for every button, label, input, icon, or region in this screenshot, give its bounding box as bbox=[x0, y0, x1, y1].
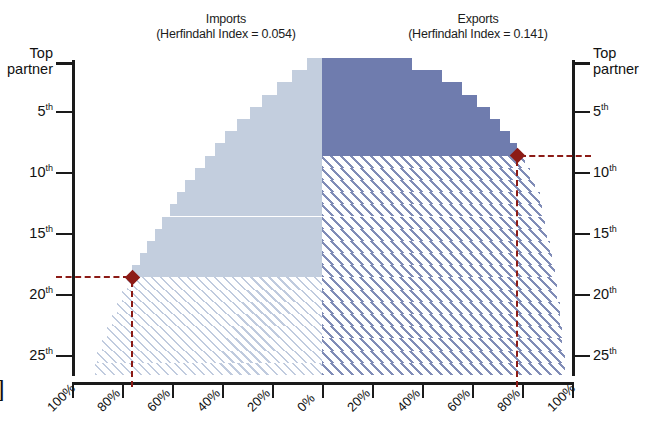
right-y-label-3-sup: th bbox=[609, 224, 617, 234]
exports-step-rank-5 bbox=[322, 107, 490, 119]
imports-step-rank-11 bbox=[185, 180, 323, 192]
left-y-tick-25 bbox=[56, 355, 72, 358]
left-y-label-2-sup: th bbox=[45, 163, 53, 173]
imports-marker-hline bbox=[56, 276, 129, 278]
imports-step-rank-16 bbox=[147, 241, 322, 253]
imports-marker-vline bbox=[131, 281, 133, 387]
exports-step-rank-2 bbox=[322, 70, 442, 82]
right-y-label-4: 20th bbox=[593, 285, 617, 302]
exports-step-rank-12 bbox=[322, 192, 540, 204]
right-y-label-2: 10th bbox=[593, 163, 617, 180]
left-y-label-5-num: 25 bbox=[29, 346, 45, 362]
right-y-axis-spine bbox=[572, 60, 575, 376]
imports-step-rank-24 bbox=[102, 338, 322, 350]
exports-step-rank-14 bbox=[322, 217, 545, 229]
exports-step-rank-19 bbox=[322, 277, 557, 289]
left-y-tick-15 bbox=[56, 233, 72, 236]
x-axis-label-5: 0% bbox=[294, 391, 318, 415]
exports-step-rank-6 bbox=[322, 119, 500, 131]
exports-step-rank-21 bbox=[322, 302, 560, 314]
exports-step-rank-26 bbox=[322, 363, 565, 375]
left-y-label-2: 10th bbox=[29, 163, 53, 180]
edge-bracket-glyph: ] bbox=[0, 374, 5, 404]
imports-step-rank-26 bbox=[95, 363, 323, 375]
exports-step-rank-23 bbox=[322, 326, 562, 338]
x-axis-label-2: 60% bbox=[144, 386, 173, 415]
left-y-label-0: Toppartner bbox=[7, 46, 53, 77]
right-y-label-1-sup: th bbox=[601, 102, 609, 112]
imports-step-rank-1 bbox=[307, 58, 322, 70]
exports-step-rank-4 bbox=[322, 95, 477, 107]
left-y-label-3: 15th bbox=[29, 224, 53, 241]
exports-step-rank-13 bbox=[322, 204, 542, 216]
left-y-label-5-sup: th bbox=[45, 346, 53, 356]
exports-step-rank-3 bbox=[322, 82, 462, 94]
left-y-label-3-sup: th bbox=[45, 224, 53, 234]
imports-step-rank-4 bbox=[262, 95, 322, 107]
imports-step-rank-20 bbox=[122, 290, 322, 302]
exports-step-rank-25 bbox=[322, 351, 565, 363]
x-axis-label-4: 20% bbox=[244, 386, 273, 415]
imports-title-line2: (Herfindahl Index = 0.054) bbox=[96, 27, 356, 42]
right-y-label-3-num: 15 bbox=[593, 225, 609, 241]
imports-step-rank-22 bbox=[112, 314, 322, 326]
x-axis-label-8: 60% bbox=[444, 386, 473, 415]
exports-step-rank-22 bbox=[322, 314, 560, 326]
right-y-label-0-line1: Top bbox=[593, 46, 639, 62]
exports-step-rank-18 bbox=[322, 265, 555, 277]
imports-step-rank-19 bbox=[127, 277, 322, 289]
plot-area bbox=[72, 58, 572, 375]
exports-step-rank-15 bbox=[322, 229, 547, 241]
right-y-label-5-sup: th bbox=[609, 346, 617, 356]
imports-step-rank-12 bbox=[177, 192, 322, 204]
exports-step-rank-20 bbox=[322, 290, 557, 302]
imports-step-rank-21 bbox=[117, 302, 322, 314]
exports-title-line1: Exports bbox=[348, 12, 608, 27]
right-y-label-5: 25th bbox=[593, 346, 617, 363]
x-axis-label-7: 40% bbox=[394, 386, 423, 415]
right-y-label-2-num: 10 bbox=[593, 164, 609, 180]
right-y-label-2-sup: th bbox=[609, 163, 617, 173]
imports-step-rank-18 bbox=[132, 265, 322, 277]
imports-step-rank-23 bbox=[107, 326, 322, 338]
right-y-tick-25 bbox=[574, 355, 590, 358]
chart-root: Imports (Herfindahl Index = 0.054) Expor… bbox=[0, 0, 672, 443]
imports-step-rank-8 bbox=[215, 143, 323, 155]
imports-step-rank-7 bbox=[225, 131, 323, 143]
exports-step-rank-7 bbox=[322, 131, 510, 143]
left-y-label-5: 25th bbox=[29, 346, 53, 363]
exports-step-rank-8 bbox=[322, 143, 517, 155]
exports-title-line2: (Herfindahl Index = 0.141) bbox=[348, 27, 608, 42]
imports-step-rank-14 bbox=[162, 217, 322, 229]
imports-step-rank-15 bbox=[155, 229, 323, 241]
imports-step-rank-9 bbox=[205, 156, 323, 168]
right-y-label-0: Toppartner bbox=[593, 46, 639, 77]
right-y-label-1: 5th bbox=[593, 102, 609, 119]
right-y-tick-5 bbox=[574, 111, 590, 114]
left-y-axis-spine bbox=[72, 60, 75, 376]
imports-panel-title: Imports (Herfindahl Index = 0.054) bbox=[96, 12, 356, 41]
right-y-label-4-num: 20 bbox=[593, 285, 609, 301]
imports-step-rank-2 bbox=[292, 70, 322, 82]
exports-step-rank-11 bbox=[322, 180, 535, 192]
left-y-label-4: 20th bbox=[29, 285, 53, 302]
right-y-tick-10 bbox=[574, 172, 590, 175]
imports-step-rank-5 bbox=[250, 107, 323, 119]
left-y-label-4-sup: th bbox=[45, 285, 53, 295]
exports-marker-hline bbox=[520, 155, 591, 157]
x-tick-5 bbox=[322, 382, 324, 398]
exports-step-rank-9 bbox=[322, 156, 525, 168]
left-y-label-0-line2: partner bbox=[7, 62, 53, 78]
left-y-tick-5 bbox=[56, 111, 72, 114]
left-y-label-1: 5th bbox=[37, 102, 53, 119]
right-y-label-1-num: 5 bbox=[593, 103, 601, 119]
imports-step-rank-10 bbox=[195, 168, 323, 180]
x-axis-label-3: 40% bbox=[194, 386, 223, 415]
left-y-tick-1 bbox=[56, 62, 72, 65]
left-y-label-1-sup: th bbox=[45, 102, 53, 112]
left-y-label-4-num: 20 bbox=[29, 285, 45, 301]
imports-step-rank-3 bbox=[277, 82, 322, 94]
right-y-tick-20 bbox=[574, 294, 590, 297]
imports-step-rank-6 bbox=[237, 119, 322, 131]
exports-step-rank-24 bbox=[322, 338, 562, 350]
